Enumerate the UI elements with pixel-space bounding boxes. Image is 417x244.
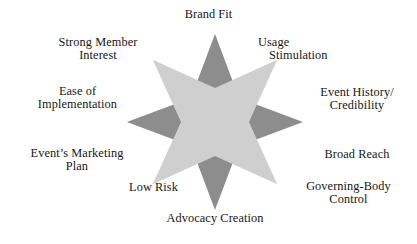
label-brand-fit-line1: Brand Fit: [0, 8, 417, 21]
label-low-risk: Low Risk: [0, 181, 178, 194]
label-usage-line1: Usage: [258, 36, 378, 49]
label-strong-member-line1: Strong Member: [24, 36, 172, 49]
label-advocacy-creation: Advocacy Creation: [130, 212, 300, 225]
label-event-marketing-line2: Plan: [2, 160, 152, 173]
label-advocacy-line1: Advocacy Creation: [130, 212, 300, 225]
star-criteria-figure: Brand Fit Usage Stimulation Event Histor…: [0, 0, 417, 244]
label-broad-reach: Broad Reach: [297, 148, 417, 161]
label-strong-member-interest: Strong Member Interest: [24, 36, 172, 63]
label-usage-line2: Stimulation: [258, 49, 378, 62]
label-ease-of-implementation: Ease of Implementation: [2, 85, 153, 112]
label-event-history-credibility: Event History/ Credibility: [297, 86, 417, 113]
label-broad-reach-line1: Broad Reach: [297, 148, 417, 161]
label-events-marketing-plan: Event’s Marketing Plan: [2, 147, 152, 174]
label-brand-fit: Brand Fit: [0, 8, 417, 21]
label-event-history-line2: Credibility: [297, 99, 417, 112]
label-governing-line2: Control: [280, 193, 417, 206]
label-governing-body-control: Governing-Body Control: [280, 180, 417, 207]
label-low-risk-line1: Low Risk: [0, 181, 178, 194]
label-usage-stimulation: Usage Stimulation: [258, 36, 378, 63]
label-strong-member-line2: Interest: [24, 49, 172, 62]
label-governing-line1: Governing-Body: [280, 180, 417, 193]
label-ease-line2: Implementation: [2, 98, 153, 111]
label-event-history-line1: Event History/: [297, 86, 417, 99]
label-ease-line1: Ease of: [2, 85, 153, 98]
label-event-marketing-line1: Event’s Marketing: [2, 147, 152, 160]
